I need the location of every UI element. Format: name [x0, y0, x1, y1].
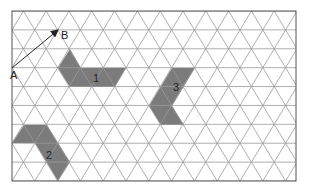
- triangular-grid-diagram: 123 A B: [0, 0, 309, 191]
- point-a-label: A: [10, 69, 18, 81]
- shape-label-1: 1: [93, 72, 99, 84]
- shape-label-2: 2: [46, 149, 52, 161]
- shape-label-3: 3: [173, 81, 179, 93]
- point-b-label: B: [61, 29, 68, 41]
